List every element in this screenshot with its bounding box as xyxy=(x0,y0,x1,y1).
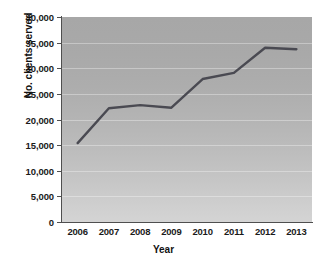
y-tick-mark xyxy=(57,120,62,121)
x-tick-label: 2008 xyxy=(130,226,150,237)
y-tick-label: 15,000 xyxy=(26,140,54,151)
x-tick-label: 2009 xyxy=(161,226,181,237)
y-tick-mark xyxy=(57,94,62,95)
x-tick-label: 2012 xyxy=(255,226,275,237)
y-tick-label: 0 xyxy=(49,217,54,228)
x-axis-title: Year xyxy=(0,244,327,255)
x-tick-label: 2007 xyxy=(99,226,119,237)
x-tick-label: 2013 xyxy=(286,226,306,237)
x-tick-label: 2011 xyxy=(224,226,244,237)
y-tick-label: 5,000 xyxy=(31,191,54,202)
y-tick-mark xyxy=(57,17,62,18)
y-axis-title: No. clients served xyxy=(23,0,34,136)
y-tick-mark xyxy=(57,222,62,223)
x-axis-line xyxy=(61,222,313,223)
y-tick-label: 10,000 xyxy=(26,165,54,176)
y-tick-mark xyxy=(57,145,62,146)
data-series-line xyxy=(62,17,312,222)
y-tick-mark xyxy=(57,171,62,172)
y-tick-mark xyxy=(57,196,62,197)
y-tick-mark xyxy=(57,68,62,69)
x-tick-label: 2006 xyxy=(67,226,87,237)
plot-area xyxy=(62,17,312,222)
y-tick-mark xyxy=(57,43,62,44)
series-polyline xyxy=(78,48,297,143)
x-tick-label: 2010 xyxy=(192,226,212,237)
line-chart-figure: 05,00010,00015,00020,00025,00030,00035,0… xyxy=(0,0,327,272)
